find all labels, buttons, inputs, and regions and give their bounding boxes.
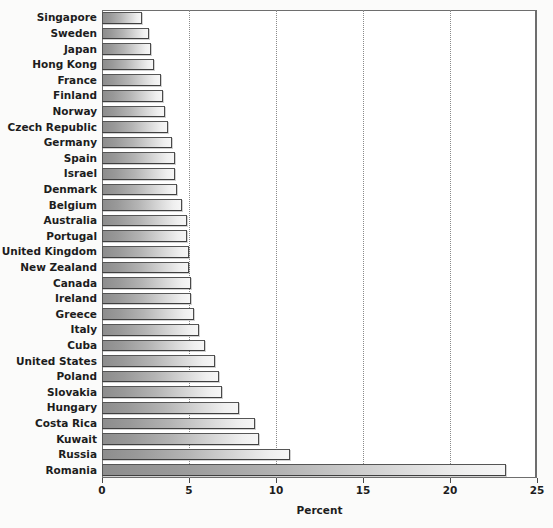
bar-row	[102, 449, 537, 461]
bar-israel[interactable]	[102, 168, 175, 180]
x-tick-label-5: 5	[185, 484, 192, 496]
x-tick-mark-10	[276, 478, 277, 483]
bar-row	[102, 199, 537, 211]
bar-row	[102, 74, 537, 86]
category-label-greece: Greece	[0, 309, 97, 320]
x-tick-mark-15	[363, 478, 364, 483]
bar-row	[102, 340, 537, 352]
bar-row	[102, 262, 537, 274]
category-label-japan: Japan	[0, 44, 97, 55]
x-tick-mark-5	[189, 478, 190, 483]
bar-czech-republic[interactable]	[102, 121, 168, 133]
category-label-france: France	[0, 75, 97, 86]
category-label-costa-rica: Costa Rica	[0, 418, 97, 429]
bar-row	[102, 59, 537, 71]
bar-ireland[interactable]	[102, 293, 191, 305]
bar-germany[interactable]	[102, 137, 172, 149]
bar-cuba[interactable]	[102, 340, 205, 352]
category-label-denmark: Denmark	[0, 184, 97, 195]
bar-row	[102, 464, 537, 476]
bar-belgium[interactable]	[102, 199, 182, 211]
bar-row	[102, 152, 537, 164]
bar-portugal[interactable]	[102, 230, 187, 242]
category-label-sweden: Sweden	[0, 28, 97, 39]
x-tick-mark-0	[102, 478, 103, 483]
category-label-czech-republic: Czech Republic	[0, 122, 97, 133]
bar-france[interactable]	[102, 74, 161, 86]
bar-finland[interactable]	[102, 90, 163, 102]
category-label-cuba: Cuba	[0, 340, 97, 351]
bar-hong-kong[interactable]	[102, 59, 154, 71]
bar-row	[102, 355, 537, 367]
bar-slovakia[interactable]	[102, 386, 222, 398]
bar-costa-rica[interactable]	[102, 418, 255, 430]
bar-australia[interactable]	[102, 215, 187, 227]
category-label-poland: Poland	[0, 371, 97, 382]
x-tick-label-25: 25	[530, 484, 545, 496]
category-label-united-kingdom: United Kingdom	[0, 246, 97, 257]
category-label-spain: Spain	[0, 153, 97, 164]
bar-row	[102, 418, 537, 430]
x-tick-mark-25	[537, 478, 538, 483]
category-axis-labels: SingaporeSwedenJapanHong KongFranceFinla…	[0, 10, 97, 478]
bar-row	[102, 43, 537, 55]
category-label-singapore: Singapore	[0, 12, 97, 23]
bar-kuwait[interactable]	[102, 433, 259, 445]
bar-italy[interactable]	[102, 324, 199, 336]
bar-russia[interactable]	[102, 449, 290, 461]
category-label-hungary: Hungary	[0, 402, 97, 413]
bar-row	[102, 293, 537, 305]
bar-row	[102, 106, 537, 118]
bar-romania[interactable]	[102, 464, 506, 476]
category-label-hong-kong: Hong Kong	[0, 59, 97, 70]
value-axis: Percent 0510152025	[102, 478, 537, 518]
bar-new-zealand[interactable]	[102, 262, 189, 274]
bar-row	[102, 277, 537, 289]
bar-japan[interactable]	[102, 43, 151, 55]
bar-greece[interactable]	[102, 308, 194, 320]
bar-row	[102, 230, 537, 242]
bar-united-states[interactable]	[102, 355, 215, 367]
bar-row	[102, 184, 537, 196]
bars-container	[102, 10, 537, 478]
bar-singapore[interactable]	[102, 12, 142, 24]
bar-row	[102, 371, 537, 383]
x-tick-label-10: 10	[269, 484, 284, 496]
category-label-australia: Australia	[0, 215, 97, 226]
x-tick-label-15: 15	[356, 484, 371, 496]
category-label-russia: Russia	[0, 449, 97, 460]
category-label-italy: Italy	[0, 324, 97, 335]
bar-row	[102, 386, 537, 398]
bar-row	[102, 308, 537, 320]
category-label-belgium: Belgium	[0, 200, 97, 211]
bar-sweden[interactable]	[102, 28, 149, 40]
bar-row	[102, 433, 537, 445]
category-label-israel: Israel	[0, 168, 97, 179]
x-tick-label-0: 0	[98, 484, 105, 496]
bar-denmark[interactable]	[102, 184, 177, 196]
category-label-united-states: United States	[0, 356, 97, 367]
category-label-new-zealand: New Zealand	[0, 262, 97, 273]
category-label-finland: Finland	[0, 90, 97, 101]
category-label-germany: Germany	[0, 137, 97, 148]
bar-united-kingdom[interactable]	[102, 246, 189, 258]
bar-row	[102, 121, 537, 133]
bar-row	[102, 137, 537, 149]
bar-row	[102, 168, 537, 180]
category-label-ireland: Ireland	[0, 293, 97, 304]
bar-norway[interactable]	[102, 106, 165, 118]
x-tick-label-20: 20	[443, 484, 458, 496]
bar-row	[102, 90, 537, 102]
bar-row	[102, 402, 537, 414]
bar-row	[102, 215, 537, 227]
category-label-norway: Norway	[0, 106, 97, 117]
bar-poland[interactable]	[102, 371, 219, 383]
category-label-slovakia: Slovakia	[0, 387, 97, 398]
bar-hungary[interactable]	[102, 402, 239, 414]
bar-row	[102, 12, 537, 24]
x-axis-title: Percent	[102, 504, 537, 516]
bar-chart: SingaporeSwedenJapanHong KongFranceFinla…	[0, 0, 553, 528]
bar-spain[interactable]	[102, 152, 175, 164]
bar-canada[interactable]	[102, 277, 191, 289]
x-tick-mark-20	[450, 478, 451, 483]
